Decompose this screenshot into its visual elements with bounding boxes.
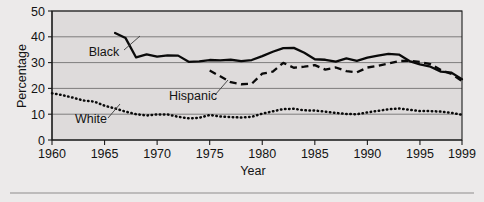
y-tick-label-10: 10 <box>31 108 45 122</box>
series-label-black: Black <box>89 45 120 59</box>
x-tick-label-1980: 1980 <box>248 147 276 161</box>
x-tick-label-1999: 1999 <box>448 147 476 161</box>
series-label-white: White <box>75 112 107 126</box>
x-axis-ticks: 196019651970197519801985199019951999 <box>38 140 476 161</box>
x-tick-label-1965: 1965 <box>91 147 119 161</box>
x-tick-label-1960: 1960 <box>38 147 66 161</box>
figure-container: 01020304050 1960196519701975198019851990… <box>0 0 484 202</box>
y-tick-label-40: 40 <box>31 30 45 44</box>
x-axis-title: Year <box>240 164 265 178</box>
y-axis-title: Percentage <box>15 44 29 108</box>
series-label-hispanic: Hispanic <box>169 89 217 103</box>
y-axis-ticks: 01020304050 <box>31 5 52 148</box>
x-tick-label-1990: 1990 <box>353 147 381 161</box>
y-tick-label-0: 0 <box>38 134 45 148</box>
x-tick-label-1985: 1985 <box>301 147 329 161</box>
percentage-by-year-line-chart: 01020304050 1960196519701975198019851990… <box>0 0 484 202</box>
x-tick-label-1970: 1970 <box>143 147 171 161</box>
plot-area-background <box>52 11 462 140</box>
x-tick-label-1975: 1975 <box>196 147 224 161</box>
y-tick-label-20: 20 <box>31 82 45 96</box>
x-tick-label-1995: 1995 <box>406 147 434 161</box>
y-tick-label-30: 30 <box>31 56 45 70</box>
y-tick-label-50: 50 <box>31 5 45 19</box>
